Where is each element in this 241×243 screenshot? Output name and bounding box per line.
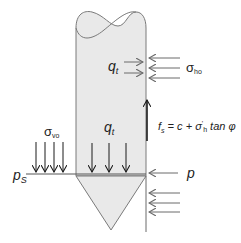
- lower-right-arrows: [149, 193, 180, 212]
- pile-stress-diagram: qt σho fs = c + σ'h tan φ σvo qt pS p: [0, 0, 241, 243]
- sigma-ho-label: σho: [186, 60, 202, 75]
- p-label: p: [186, 165, 195, 181]
- sigma-vo-label: σvo: [44, 124, 60, 139]
- sigma-vo-arrows: [36, 142, 63, 172]
- sigma-ho-arrows: [149, 58, 180, 78]
- ps-label: pS: [12, 167, 27, 185]
- fs-equation: fs = c + σ'h tan φ: [158, 120, 236, 134]
- cone-tip: [76, 176, 146, 230]
- pile-shaft: [76, 12, 146, 176]
